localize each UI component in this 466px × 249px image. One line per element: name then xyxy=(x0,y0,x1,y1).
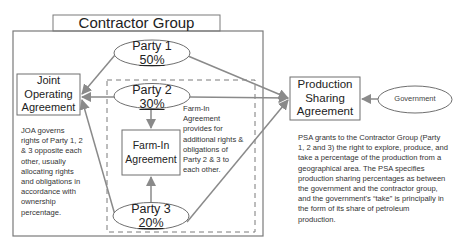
joa-label-line: Joint xyxy=(17,74,80,88)
psa-label: Production Sharing Agreement xyxy=(290,78,360,119)
psa-label-line: Sharing xyxy=(290,92,360,106)
joa-label-line: Operating xyxy=(17,88,80,102)
party1-to-joa-arrow xyxy=(82,55,115,94)
party3-share: 20% xyxy=(113,216,189,230)
farm-in-label: Farm-In Agreement xyxy=(121,139,181,166)
farm-in-description: Farm-In Agreement provides for additiona… xyxy=(183,104,245,175)
party1-share: 50% xyxy=(114,53,190,67)
farm-in-label-line: Agreement xyxy=(121,153,181,167)
psa-description: PSA grants to the Contractor Group (Part… xyxy=(298,133,448,225)
farm-in-label-line: Farm-In xyxy=(121,139,181,153)
psa-label-line: Agreement xyxy=(290,105,360,119)
party1-name: Party 1 xyxy=(114,39,190,53)
joa-description: JOA governs rights of Party 1, 2 & 3 opp… xyxy=(21,126,83,218)
psa-label-line: Production xyxy=(290,78,360,92)
party2-name: Party 2 xyxy=(114,83,190,97)
party1-label: Party 1 50% xyxy=(114,39,190,67)
party3-name: Party 3 xyxy=(113,202,189,216)
party2-label: Party 2 30% xyxy=(114,83,190,111)
party3-label: Party 3 20% xyxy=(113,202,189,230)
joa-label: Joint Operating Agreement xyxy=(17,74,80,115)
party2-share: 30% xyxy=(114,97,190,111)
party2-to-psa-arrow xyxy=(190,97,288,98)
government-label: Government xyxy=(378,94,452,103)
party1-to-psa-arrow xyxy=(188,56,288,98)
party3-to-joa-arrow xyxy=(82,100,117,222)
joa-label-line: Agreement xyxy=(17,101,80,115)
contractor-group-title: Contractor Group xyxy=(53,14,220,31)
